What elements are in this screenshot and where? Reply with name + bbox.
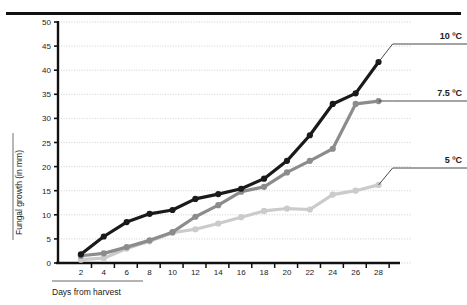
x-axis-tick-label: 20 [283,268,292,277]
data-point-marker [101,250,107,256]
data-point-marker [124,244,130,250]
y-axis-tick-label: 40 [42,66,51,75]
leader-line [379,44,467,62]
data-point-marker [284,158,290,164]
data-point-marker [169,229,175,235]
data-point-marker [192,226,198,232]
y-axis-tick-label: 30 [42,114,51,123]
data-point-marker [284,205,290,211]
series-label-5c: 5 ºC [445,155,463,165]
x-axis-tick-label: 26 [351,268,360,277]
y-axis-tick-label: 45 [42,42,51,51]
data-point-marker [238,186,244,192]
x-axis-tick-label: 12 [191,268,200,277]
y-axis-tick-label: 10 [42,211,51,220]
data-point-marker [215,220,221,226]
data-point-marker [330,191,336,197]
x-axis-tick-label: 8 [147,268,152,277]
data-point-marker [284,169,290,175]
x-axis-tick-label: 2 [79,268,84,277]
data-point-marker [353,101,359,107]
y-axis: 05101520253035404550 [42,18,58,268]
data-series-group [78,59,382,263]
leader-line [379,168,467,185]
x-axis: 246810121416182022242628 [56,263,400,277]
y-axis-tick-label: 25 [42,139,51,148]
series-label-75c: 7.5 ºC [437,88,462,98]
x-axis-tick-label: 10 [168,268,177,277]
data-point-marker [307,132,313,138]
data-point-marker [238,214,244,220]
series-labels: 10 ºC7.5 ºC5 ºC [437,31,462,165]
data-point-marker [215,202,221,208]
y-axis-tick-label: 0 [47,259,52,268]
data-point-marker [307,158,313,164]
data-point-marker [124,219,130,225]
y-axis-tick-label: 35 [42,90,51,99]
x-axis-tick-label: 14 [214,268,223,277]
x-axis-tick-label: 28 [374,268,383,277]
data-point-marker [353,90,359,96]
data-point-marker [330,101,336,107]
data-point-marker [78,251,84,257]
data-point-marker [146,211,152,217]
y-axis-title: Fungal growth (in mm) [14,150,24,235]
y-axis-tick-label: 20 [42,163,51,172]
y-axis-tick-label: 15 [42,187,51,196]
series-75c [78,98,382,259]
data-point-marker [192,214,198,220]
data-point-marker [215,191,221,197]
x-axis-tick-label: 24 [328,268,337,277]
data-point-marker [353,188,359,194]
y-axis-tick-label: 5 [47,235,52,244]
x-axis-tick-label: 6 [124,268,129,277]
data-point-marker [261,184,267,190]
line-chart-canvas: 05101520253035404550 2468101214161820222… [0,0,467,305]
gridlines-group [61,22,412,263]
x-axis-title: Days from harvest [52,287,122,297]
series-line [81,101,379,256]
chart-figure: 05101520253035404550 2468101214161820222… [0,0,467,305]
data-point-marker [146,237,152,243]
series-label-10c: 10 ºC [440,31,463,41]
data-point-marker [101,233,107,239]
x-axis-tick-label: 22 [305,268,314,277]
x-axis-tick-label: 16 [237,268,246,277]
data-point-marker [261,176,267,182]
data-point-marker [330,146,336,152]
x-axis-tick-label: 4 [102,268,107,277]
y-axis-tick-label: 50 [42,18,51,27]
data-point-marker [307,206,313,212]
series-10c [78,59,382,258]
x-axis-tick-label: 18 [260,268,269,277]
data-point-marker [192,196,198,202]
series-line [81,62,379,254]
data-point-marker [261,208,267,214]
data-point-marker [169,207,175,213]
